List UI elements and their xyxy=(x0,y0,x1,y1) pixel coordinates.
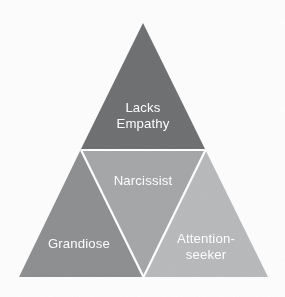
label-narcissist: Narcissist xyxy=(114,173,173,188)
triangle-diagram-svg: LacksEmpathy Narcissist Grandiose Attent… xyxy=(0,0,285,297)
label-grandiose: Grandiose xyxy=(48,236,110,251)
triangle-diagram: LacksEmpathy Narcissist Grandiose Attent… xyxy=(0,0,285,297)
